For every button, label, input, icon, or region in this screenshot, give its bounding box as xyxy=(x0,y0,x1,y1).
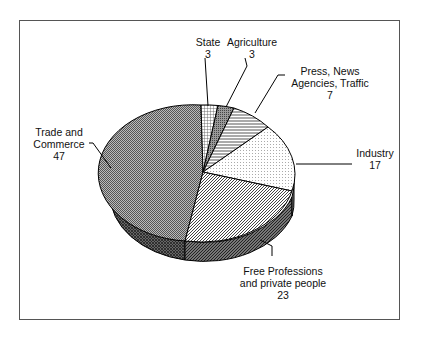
slice-trade-and-commerce xyxy=(98,105,203,241)
label-free-line1: Free Professions xyxy=(233,265,333,277)
label-agriculture-value: 3 xyxy=(224,48,280,60)
label-press-line2: Agencies, Traffic xyxy=(285,77,375,89)
label-state-name: State xyxy=(193,36,223,48)
label-free-line2: and private people xyxy=(233,277,333,289)
label-trade-and-commerce: Trade and Commerce 47 xyxy=(26,126,92,162)
label-free-value: 23 xyxy=(233,289,333,301)
label-press: Press, News Agencies, Traffic 7 xyxy=(285,65,375,101)
label-industry: Industry 17 xyxy=(350,147,400,171)
label-industry-name: Industry xyxy=(350,147,400,159)
label-trade-line2: Commerce xyxy=(26,138,92,150)
label-press-line1: Press, News xyxy=(285,65,375,77)
label-state-value: 3 xyxy=(193,48,223,60)
label-agriculture-name: Agriculture xyxy=(224,36,280,48)
label-press-value: 7 xyxy=(285,89,375,101)
label-trade-line1: Trade and xyxy=(26,126,92,138)
pie-top xyxy=(98,105,295,242)
label-industry-value: 17 xyxy=(350,159,400,171)
label-agriculture: Agriculture 3 xyxy=(224,36,280,60)
label-state: State 3 xyxy=(193,36,223,60)
label-trade-value: 47 xyxy=(26,150,92,162)
label-free-professions: Free Professions and private people 23 xyxy=(233,265,333,301)
